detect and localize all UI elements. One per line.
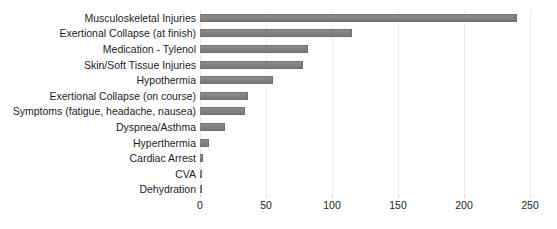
bar[interactable] [200, 45, 308, 53]
bar[interactable] [200, 61, 303, 69]
bar-track [200, 45, 308, 53]
category-label: Exertional Collapse (on course) [50, 91, 197, 102]
bar-row: Dyspnea/Asthma [0, 119, 557, 135]
plot-area: Musculoskeletal InjuriesExertional Colla… [0, 0, 557, 229]
bar-rows: Musculoskeletal InjuriesExertional Colla… [0, 10, 557, 197]
category-label: CVA [175, 168, 196, 179]
bar-track [200, 14, 517, 22]
bar-track [200, 185, 202, 193]
bar-row: Symptoms (fatigue, headache, nausea) [0, 104, 557, 120]
category-label: Dyspnea/Asthma [116, 122, 196, 133]
bar-track [200, 154, 203, 162]
bar[interactable] [200, 123, 225, 131]
category-label: Hyperthermia [133, 137, 196, 148]
x-tick-mark-50 [266, 195, 267, 198]
bar-row: Exertional Collapse (on course) [0, 88, 557, 104]
bar-track [200, 139, 209, 147]
x-tick-label: 150 [389, 200, 407, 211]
x-tick-label: 100 [323, 200, 341, 211]
bar[interactable] [200, 170, 202, 178]
x-tick-mark-200 [464, 195, 465, 198]
bar-row: Hypothermia [0, 72, 557, 88]
bar[interactable] [200, 185, 202, 193]
bar-row: Skin/Soft Tissue Injuries [0, 57, 557, 73]
x-tick-mark-0 [200, 195, 201, 198]
category-label: Skin/Soft Tissue Injuries [84, 59, 196, 70]
category-label: Symptoms (fatigue, headache, nausea) [13, 106, 196, 117]
bar-chart: Musculoskeletal InjuriesExertional Colla… [0, 0, 557, 229]
bar-row: Cardiac Arrest [0, 150, 557, 166]
x-tick-label: 0 [197, 200, 203, 211]
category-label: Exertional Collapse (at finish) [59, 28, 196, 39]
bar-track [200, 107, 245, 115]
x-axis: 050100150200250 [0, 198, 557, 220]
bar[interactable] [200, 154, 203, 162]
bar-track [200, 76, 273, 84]
bar-track [200, 123, 225, 131]
category-label: Musculoskeletal Injuries [85, 13, 196, 24]
x-tick-mark-250 [530, 195, 531, 198]
category-label: Dehydration [139, 184, 196, 195]
x-tick-label: 50 [260, 200, 272, 211]
bar-track [200, 170, 202, 178]
bar-row: CVA [0, 166, 557, 182]
x-tick-label: 250 [521, 200, 539, 211]
bar[interactable] [200, 92, 248, 100]
bar[interactable] [200, 107, 245, 115]
bar[interactable] [200, 139, 209, 147]
x-tick-mark-100 [332, 195, 333, 198]
bar-row: Musculoskeletal Injuries [0, 10, 557, 26]
bar[interactable] [200, 29, 352, 37]
category-label: Hypothermia [136, 75, 196, 86]
bar[interactable] [200, 76, 273, 84]
bar-track [200, 92, 248, 100]
category-label: Medication - Tylenol [103, 44, 196, 55]
bar-row: Hyperthermia [0, 135, 557, 151]
bar-row: Medication - Tylenol [0, 41, 557, 57]
bar-row: Dehydration [0, 182, 557, 198]
bar[interactable] [200, 14, 517, 22]
x-tick-mark-150 [398, 195, 399, 198]
category-label: Cardiac Arrest [129, 153, 196, 164]
bar-track [200, 29, 352, 37]
x-tick-label: 200 [455, 200, 473, 211]
bar-track [200, 61, 303, 69]
bar-row: Exertional Collapse (at finish) [0, 26, 557, 42]
